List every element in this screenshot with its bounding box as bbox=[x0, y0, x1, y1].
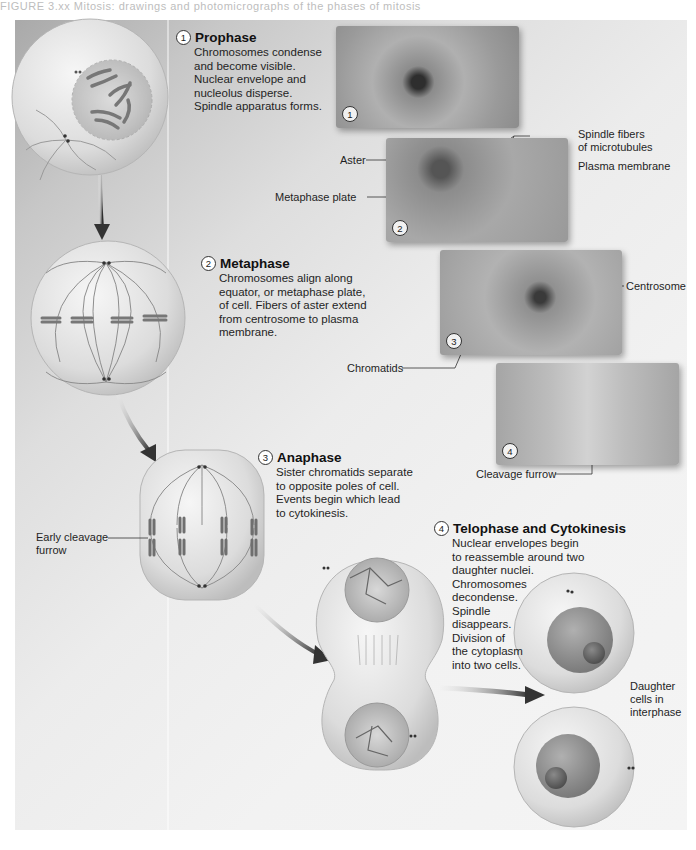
phase-title: Anaphase bbox=[277, 451, 342, 465]
label-spindle-fibers: Spindle fibers of microtubules bbox=[578, 128, 653, 154]
label-plasma-membrane: Plasma membrane bbox=[578, 160, 670, 173]
label-centrosome: Centrosome bbox=[626, 280, 686, 293]
micrograph-number-1: 1 bbox=[342, 106, 358, 122]
label-daughter-cells: Daughter cells in interphase bbox=[630, 680, 681, 719]
telophase-cell bbox=[316, 558, 443, 770]
micrograph-number-3: 3 bbox=[446, 333, 462, 349]
step-number-4: 4 bbox=[434, 521, 449, 536]
phase-metaphase: 2 Metaphase Chromosomes align along equa… bbox=[219, 256, 367, 340]
daughter-cell-bottom bbox=[514, 707, 635, 827]
step-number-1: 1 bbox=[176, 30, 191, 45]
phase-title: Metaphase bbox=[220, 257, 290, 271]
phase-description: Sister chromatids separate to opposite p… bbox=[276, 466, 413, 520]
anaphase-cell bbox=[140, 450, 264, 600]
label-chromatids: Chromatids bbox=[347, 362, 403, 375]
prophase-cell bbox=[12, 19, 168, 180]
label-early-cleavage-furrow: Early cleavage furrow bbox=[36, 531, 108, 557]
phase-title: Prophase bbox=[195, 31, 257, 45]
metaphase-cell bbox=[31, 241, 185, 395]
micrograph-number-2: 2 bbox=[392, 220, 408, 236]
micrograph-anaphase: 3 bbox=[440, 250, 622, 355]
phase-title: Telophase and Cytokinesis bbox=[453, 522, 626, 536]
micrograph-metaphase: 2 bbox=[386, 138, 568, 242]
label-aster: Aster bbox=[340, 154, 366, 167]
phase-telophase: 4 Telophase and Cytokinesis Nuclear enve… bbox=[452, 521, 626, 672]
label-cleavage-furrow: Cleavage furrow bbox=[476, 468, 556, 481]
phase-prophase: 1 Prophase Chromosomes condense and beco… bbox=[194, 30, 322, 114]
phase-description: Nuclear envelopes begin to reassemble ar… bbox=[452, 537, 626, 672]
phase-description: Chromosomes condense and become visible.… bbox=[194, 46, 322, 114]
phase-anaphase: 3 Anaphase Sister chromatids separate to… bbox=[276, 450, 413, 520]
label-metaphase-plate: Metaphase plate bbox=[275, 191, 356, 204]
micrograph-number-4: 4 bbox=[502, 443, 518, 459]
micrograph-prophase: 1 bbox=[336, 26, 519, 128]
micrograph-telophase: 4 bbox=[496, 363, 679, 465]
step-number-3: 3 bbox=[258, 450, 273, 465]
phase-description: Chromosomes align along equator, or meta… bbox=[219, 272, 367, 340]
step-number-2: 2 bbox=[201, 256, 216, 271]
